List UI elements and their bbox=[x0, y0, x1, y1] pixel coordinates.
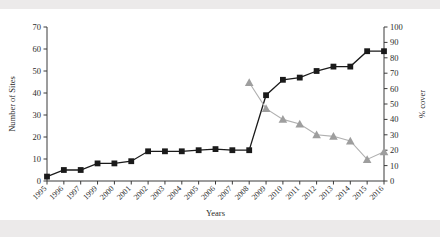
data-point-square bbox=[128, 158, 134, 164]
x-axis-tick-label: 2004 bbox=[166, 184, 184, 202]
data-point-square bbox=[229, 147, 235, 153]
x-axis-tick-label: 2006 bbox=[199, 184, 217, 202]
data-point-square bbox=[213, 146, 219, 152]
data-point-square bbox=[61, 167, 67, 173]
right-axis-tick-label: 40 bbox=[390, 114, 399, 124]
x-axis-tick-label: 2003 bbox=[149, 184, 167, 202]
data-point-square bbox=[145, 148, 151, 154]
left-axis-tick-label: 20 bbox=[33, 132, 42, 142]
x-axis-tick-label: 2015 bbox=[351, 184, 369, 202]
right-axis-tick-label: 10 bbox=[390, 161, 399, 171]
x-axis-tick-label: 1996 bbox=[48, 184, 66, 202]
right-axis-tick-label: 60 bbox=[390, 84, 399, 94]
x-axis-tick-label: 2016 bbox=[368, 184, 386, 202]
right-axis-tick-label: 70 bbox=[390, 68, 399, 78]
data-point-square bbox=[112, 161, 118, 167]
left-axis-tick-label: 70 bbox=[33, 22, 42, 32]
right-axis-tick-label: 20 bbox=[390, 145, 399, 155]
x-axis-tick-label: 2010 bbox=[267, 184, 285, 202]
left-axis-tick-label: 10 bbox=[33, 154, 42, 164]
x-axis-tick-label: 2002 bbox=[132, 184, 150, 202]
x-axis-tick-label: 2000 bbox=[98, 184, 116, 202]
x-axis-tick-label: 2001 bbox=[115, 184, 133, 202]
data-point-triangle bbox=[245, 78, 254, 86]
x-axis-tick-label: 2013 bbox=[317, 184, 335, 202]
data-point-triangle bbox=[279, 115, 288, 123]
x-axis-tick-label: 2005 bbox=[182, 184, 200, 202]
data-point-square bbox=[44, 174, 50, 180]
data-point-square bbox=[331, 64, 337, 70]
data-point-square bbox=[347, 64, 353, 70]
data-point-square bbox=[95, 161, 101, 167]
chart-svg: 0102030405060700102030405060708090100199… bbox=[0, 0, 440, 237]
right-axis-tick-label: 0 bbox=[390, 176, 394, 186]
data-point-square bbox=[196, 147, 202, 153]
right-axis-tick-label: 50 bbox=[390, 99, 399, 109]
data-point-square bbox=[381, 48, 387, 54]
right-axis-tick-label: 100 bbox=[390, 22, 403, 32]
data-point-square bbox=[179, 148, 185, 154]
left-axis-tick-label: 50 bbox=[33, 66, 42, 76]
series-line-2 bbox=[249, 82, 384, 159]
data-point-square bbox=[314, 68, 320, 74]
data-point-square bbox=[297, 75, 303, 81]
x-axis-tick-label: 2009 bbox=[250, 184, 268, 202]
data-point-square bbox=[280, 77, 286, 83]
data-point-triangle bbox=[380, 147, 389, 155]
data-point-square bbox=[263, 92, 269, 98]
left-axis-tick-label: 40 bbox=[33, 88, 42, 98]
left-axis-tick-label: 30 bbox=[33, 110, 42, 120]
x-axis-tick-label: 1997 bbox=[64, 184, 82, 202]
data-point-triangle bbox=[312, 131, 321, 139]
x-axis-title: Years bbox=[206, 208, 225, 218]
series-line-1 bbox=[47, 51, 384, 176]
x-axis-tick-label: 2008 bbox=[233, 184, 251, 202]
right-axis-tick-label: 30 bbox=[390, 130, 399, 140]
data-point-square bbox=[246, 147, 252, 153]
x-axis-tick-label: 2007 bbox=[216, 184, 234, 202]
x-axis-tick-label: 1995 bbox=[31, 184, 49, 202]
right-axis-tick-label: 80 bbox=[390, 53, 399, 63]
data-point-square bbox=[364, 48, 370, 54]
x-axis-tick-label: 2011 bbox=[284, 184, 301, 201]
x-axis-tick-label: 1999 bbox=[81, 184, 99, 202]
left-axis-title: Number of Sites bbox=[7, 76, 17, 132]
right-axis-title: % cover bbox=[417, 90, 427, 118]
data-point-square bbox=[78, 167, 84, 173]
data-point-square bbox=[162, 148, 168, 154]
left-axis-tick-label: 60 bbox=[33, 44, 42, 54]
x-axis-tick-label: 2012 bbox=[300, 184, 318, 202]
chart-figure: 0102030405060700102030405060708090100199… bbox=[0, 0, 440, 237]
right-axis-tick-label: 90 bbox=[390, 37, 399, 47]
x-axis-tick-label: 2014 bbox=[334, 184, 352, 202]
